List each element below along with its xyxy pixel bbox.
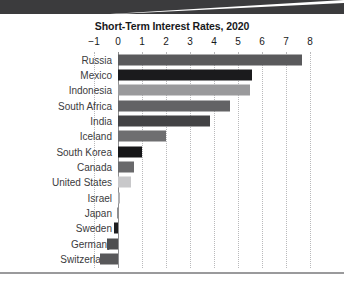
category-label-mexico: Mexico [26,69,112,80]
bar-row: South Africa [0,98,344,113]
x-tick-label: 2 [163,36,169,47]
bar-row: Russia [0,52,344,67]
top-banner [0,0,344,14]
category-label-south-africa: South Africa [26,100,112,111]
x-tick-label: 0 [115,36,121,47]
bar-row: Indonesia [0,83,344,98]
plot-area: RussiaMexicoIndonesiaSouth AfricaIndiaIc… [0,52,344,268]
chart-card: Short-Term Interest Rates, 2020 −1012345… [0,14,344,272]
x-tick-label: −1 [88,36,99,47]
bar-south-korea [118,146,142,157]
x-tick-label: 6 [259,36,265,47]
bar-row: Iceland [0,129,344,144]
bar-row: Canada [0,159,344,174]
category-label-russia: Russia [26,54,112,65]
x-tick-label: 7 [283,36,289,47]
bar-row: Mexico [0,67,344,82]
bar-mexico [118,69,252,80]
bar-indonesia [118,85,250,96]
category-label-germany: Germany [26,238,112,249]
bar-row: Germany [0,236,344,251]
bar-sweden [114,223,118,234]
category-label-iceland: Iceland [26,131,112,142]
bar-israel [118,192,120,203]
category-label-canada: Canada [26,162,112,173]
bar-row: Switzerland [0,252,344,267]
category-label-india: India [26,115,112,126]
bar-row: South Korea [0,144,344,159]
chart-title: Short-Term Interest Rates, 2020 [0,20,344,32]
bottom-fill [0,274,344,286]
x-tick-label: 4 [211,36,217,47]
bar-russia [118,54,302,65]
bar-japan [117,208,118,219]
bar-row: Sweden [0,221,344,236]
bar-united-states [118,177,131,188]
category-label-japan: Japan [26,208,112,219]
bar-row: Japan [0,206,344,221]
bar-row: Israel [0,190,344,205]
x-axis-tick-labels: −1012345678 [0,36,344,50]
bar-row: United States [0,175,344,190]
category-label-south-korea: South Korea [26,146,112,157]
bar-south-africa [118,100,230,111]
x-tick-label: 1 [139,36,145,47]
category-label-sweden: Sweden [26,223,112,234]
category-label-indonesia: Indonesia [26,85,112,96]
x-tick-label: 8 [307,36,313,47]
banner-diagonal-wedge [110,0,344,14]
category-label-israel: Israel [26,192,112,203]
bar-switzerland [100,254,118,265]
bar-canada [118,162,134,173]
bar-iceland [118,131,166,142]
category-label-united-states: United States [26,177,112,188]
bar-germany [107,238,118,249]
x-tick-label: 3 [187,36,193,47]
bar-row: India [0,113,344,128]
bar-india [118,115,210,126]
x-tick-label: 5 [235,36,241,47]
